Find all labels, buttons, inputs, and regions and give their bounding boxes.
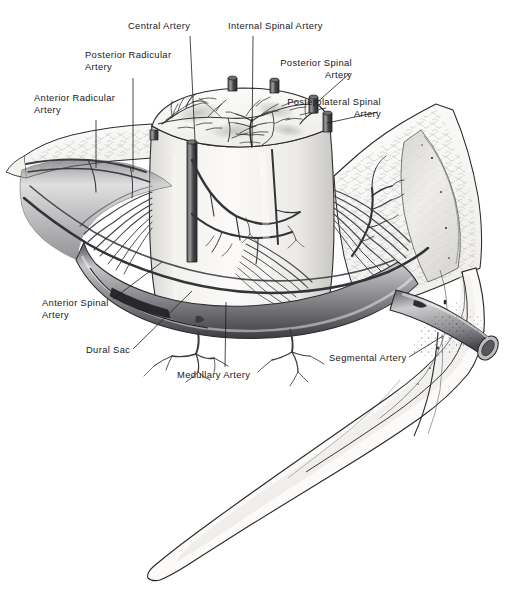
label-posterolateral-spinal-artery: Posterolateral Spinal Artery bbox=[287, 96, 381, 119]
label-posterior-radicular-artery: Posterior Radicular Artery bbox=[85, 49, 171, 72]
label-anterior-radicular-artery: Anterior Radicular Artery bbox=[34, 92, 115, 115]
label-medullary-artery: Medullary Artery bbox=[177, 369, 250, 381]
label-dural-sac: Dural Sac bbox=[86, 344, 130, 356]
label-posterior-spinal-artery: Posterior Spinal Artery bbox=[280, 57, 352, 80]
label-anterior-spinal-artery: Anterior Spinal Artery bbox=[42, 297, 109, 320]
label-central-artery: Central Artery bbox=[128, 20, 190, 32]
label-segmental-artery: Segmental Artery bbox=[329, 352, 407, 364]
label-internal-spinal-artery: Internal Spinal Artery bbox=[228, 20, 323, 32]
